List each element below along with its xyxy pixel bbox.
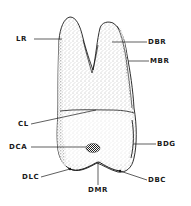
- label-DMR: DMR: [88, 186, 108, 194]
- leader-DLC: [41, 169, 70, 177]
- diagram-canvas: LR DBR MBR CL DCA BDG DLC DBC DMR: [0, 0, 191, 206]
- label-BDG: BDG: [157, 140, 176, 148]
- label-DBR: DBR: [148, 38, 166, 46]
- label-DCA: DCA: [9, 143, 27, 151]
- label-CL: CL: [18, 120, 29, 128]
- label-MBR: MBR: [150, 57, 170, 65]
- crown-highlight: [64, 114, 131, 165]
- label-DLC: DLC: [22, 173, 39, 181]
- label-LR: LR: [16, 35, 27, 43]
- label-DBC: DBC: [148, 176, 166, 184]
- distal-contact-area: [86, 144, 100, 153]
- leader-DBC: [120, 171, 147, 180]
